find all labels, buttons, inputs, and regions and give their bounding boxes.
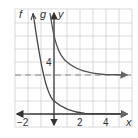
tick-x-m2: −2	[17, 117, 29, 128]
label-f: f	[19, 8, 23, 20]
tick-x-4: 4	[103, 117, 109, 128]
label-x: x	[125, 116, 132, 128]
grid	[15, 9, 132, 127]
label-g: g	[40, 8, 47, 20]
tick-x-2: 2	[77, 117, 83, 128]
label-y: y	[57, 8, 65, 20]
graph: f g y x 4 −2 2 4	[0, 0, 138, 138]
curve-g	[50, 13, 127, 75]
tick-y-4: 4	[46, 57, 52, 68]
